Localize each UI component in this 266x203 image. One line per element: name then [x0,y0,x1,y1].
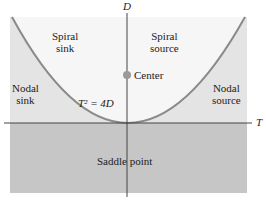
spiral-source-label: Spiral source [150,30,179,54]
nodal-source-line1: Nodal [212,82,241,94]
spiral-sink-line1: Spiral [52,30,78,42]
curve-label: T² = 4D [78,97,114,109]
spiral-source-line1: Spiral [150,30,179,42]
nodal-source-label: Nodal source [212,82,241,106]
spiral-sink-label: Spiral sink [52,30,78,54]
center-label: Center [134,69,163,81]
saddle-point-label: Saddle point [97,155,152,167]
nodal-sink-label: Nodal sink [12,82,39,106]
d-axis-label: D [123,0,131,12]
nodal-source-line2: source [212,94,241,106]
spiral-sink-line2: sink [52,42,78,54]
spiral-source-line2: source [150,42,179,54]
nodal-sink-line1: Nodal [12,82,39,94]
nodal-sink-line2: sink [12,94,39,106]
center-dot [123,71,131,79]
t-axis-label: T [256,116,262,128]
